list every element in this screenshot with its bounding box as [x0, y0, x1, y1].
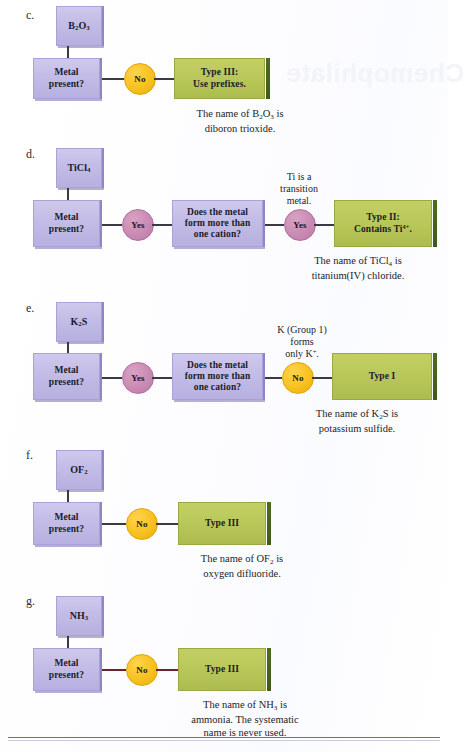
- answer-circle-no-e: No: [282, 362, 314, 394]
- formula-label-d: TiCl4: [64, 162, 93, 175]
- connector-answer-to-result-c: [154, 78, 174, 80]
- connector-answer-to-result-f: [156, 523, 178, 525]
- result-label-d: Type II: Contains Ti4+.: [351, 212, 415, 235]
- bleed-through-title: Chemophilate: [286, 58, 464, 89]
- result-box-c: Type III: Use prefixes.: [174, 58, 265, 99]
- section-label-e: e.: [26, 301, 34, 316]
- question-box-metal-present-g: Metal present?: [33, 648, 100, 691]
- caption-d: The name of TiCl4 is titanium(IV) chlori…: [272, 254, 444, 282]
- connector-question-to-answer1-d: [102, 224, 122, 226]
- formula-label-e: K2S: [67, 316, 90, 329]
- result-label-f: Type III: [202, 518, 242, 529]
- connector-answer1-to-question2-e: [152, 377, 172, 379]
- cation-question-label-d: Does the metal form more than one cation…: [182, 207, 254, 241]
- answer-label-g: No: [136, 665, 147, 675]
- section-label-d: d.: [26, 147, 35, 162]
- question-label-d: Metal present?: [46, 212, 87, 234]
- connector-question-to-answer1-e: [102, 377, 122, 379]
- result-box-rail-e: [433, 353, 437, 400]
- connector-question-to-answer-c: [102, 78, 124, 80]
- answer-label-1-e: Yes: [131, 373, 145, 383]
- formula-box-e: K2S: [56, 302, 102, 342]
- caption-g: The name of NH3 is ammonia. The systemat…: [150, 698, 340, 740]
- answer-label-c: No: [134, 74, 145, 84]
- caption-e: The name of K2S is potassium sulfide.: [274, 407, 440, 435]
- answer-circle-yes-1-d: Yes: [122, 209, 154, 241]
- answer-label-f: No: [136, 519, 147, 529]
- connector-question-to-answer-g: [102, 669, 126, 671]
- question-box-metal-present-f: Metal present?: [33, 502, 100, 545]
- result-label-g: Type III: [202, 664, 242, 675]
- question-label-f: Metal present?: [46, 512, 87, 534]
- formula-box-g: NH3: [56, 596, 102, 636]
- question-box-metal-present-e: Metal present?: [33, 353, 100, 400]
- result-label-e: Type I: [366, 371, 399, 382]
- connector-answer2-to-result-d: [314, 224, 334, 226]
- answer-circle-no-g: No: [126, 654, 158, 686]
- section-label-f: f.: [26, 448, 33, 463]
- answer-circle-yes-2-d: Yes: [284, 209, 316, 241]
- answer-label-1-d: Yes: [131, 220, 145, 230]
- connector-question2-to-answer2-d: [265, 224, 284, 226]
- connector-question-to-answer-f: [102, 523, 126, 525]
- question-label-e: Metal present?: [46, 365, 87, 387]
- section-label-c: c.: [26, 8, 34, 23]
- formula-label-f: OF2: [67, 464, 91, 477]
- formula-box-c: B2O3: [56, 6, 102, 46]
- result-box-d: Type II: Contains Ti4+.: [334, 200, 432, 247]
- connector-answer-to-result-g: [156, 669, 178, 671]
- formula-box-f: OF2: [56, 450, 102, 490]
- caption-f: The name of OF2 is oxygen difluoride.: [162, 552, 322, 580]
- result-box-rail-d: [433, 200, 437, 247]
- result-box-rail-g: [267, 648, 271, 691]
- answer-label-2-e: No: [292, 373, 303, 383]
- connector-question2-to-answer2-e: [265, 377, 282, 379]
- formula-box-d: TiCl4: [56, 148, 102, 188]
- result-box-e: Type I: [332, 353, 432, 400]
- page-divider-rule: [8, 737, 440, 738]
- result-label-c: Type III: Use prefixes.: [190, 67, 249, 89]
- question-label-g: Metal present?: [46, 658, 87, 680]
- answer-label-2-d: Yes: [293, 220, 307, 230]
- result-box-f: Type III: [178, 502, 266, 545]
- connector-answer2-to-result-e: [312, 377, 332, 379]
- connector-answer1-to-question2-d: [152, 224, 172, 226]
- question-box-cation-e: Does the metal form more than one cation…: [172, 353, 263, 400]
- caption-c: The name of B2O3 is diboron trioxide.: [160, 107, 320, 135]
- question-box-metal-present-c: Metal present?: [33, 58, 100, 99]
- question-label-c: Metal present?: [46, 67, 87, 89]
- answer-circle-no-f: No: [126, 508, 158, 540]
- result-box-rail-c: [266, 58, 270, 99]
- note-d: Ti is a transition metal.: [268, 171, 330, 208]
- section-label-g: g.: [26, 594, 35, 609]
- cation-question-label-e: Does the metal form more than one cation…: [182, 360, 254, 394]
- question-box-metal-present-d: Metal present?: [33, 200, 100, 247]
- result-box-rail-f: [267, 502, 271, 545]
- note-e: K (Group 1) forms only K+.: [266, 324, 338, 361]
- answer-circle-yes-e: Yes: [122, 362, 154, 394]
- answer-circle-no-c: No: [124, 63, 156, 95]
- result-box-g: Type III: [178, 648, 266, 691]
- formula-label-c: B2O3: [65, 20, 93, 33]
- page-divider-rule-secondary: [8, 740, 440, 741]
- formula-label-g: NH3: [67, 610, 92, 623]
- question-box-cation-d: Does the metal form more than one cation…: [172, 200, 263, 247]
